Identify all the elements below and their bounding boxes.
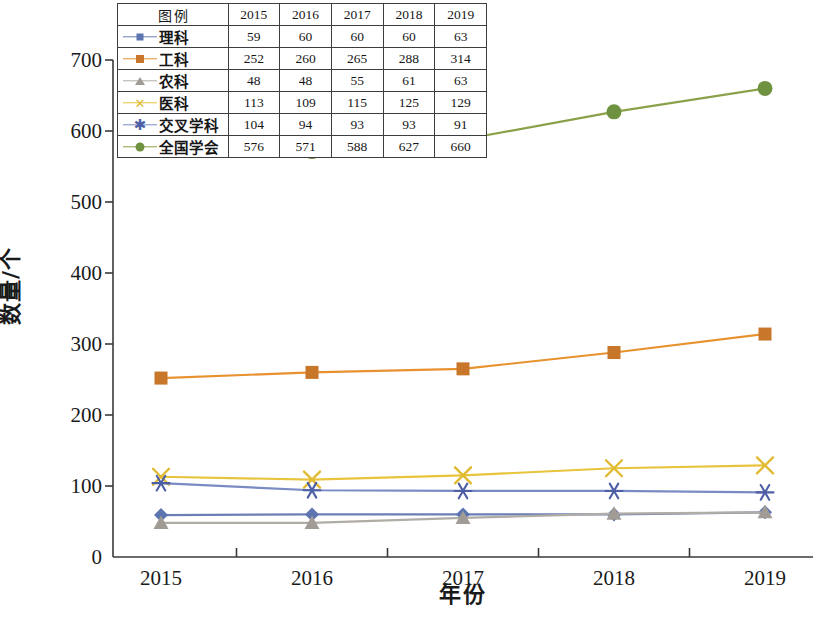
line-chart-figure: 图例 2015 2016 2017 2018 2019 理科5960606063… [0,0,817,624]
y-tick-label: 700 [71,48,103,73]
legend-value-cell: 104 [228,114,280,136]
x-tick-label: 2016 [291,566,333,591]
legend-series-cell: 理科 [118,26,229,48]
legend-value-cell: 252 [228,48,280,70]
legend-marker-square-icon [123,52,157,66]
legend-value-cell: 63 [435,26,487,48]
legend-header-row: 图例 2015 2016 2017 2018 2019 [118,4,487,26]
legend-marker-diamond-icon [123,30,157,44]
legend-value-cell: 113 [228,92,280,114]
legend-data-table: 图例 2015 2016 2017 2018 2019 理科5960606063… [117,3,487,158]
legend-series-cell: 工科 [118,48,229,70]
legend-value-cell: 55 [331,70,383,92]
legend-row: 农科4848556163 [118,70,487,92]
legend-series-cell: ✕医科 [118,92,229,114]
y-tick-label: 600 [71,119,103,144]
legend-value-cell: 314 [435,48,487,70]
y-tick-label: 200 [71,403,103,428]
legend-header-2018: 2018 [383,4,435,26]
legend-series-label: 工科 [159,48,189,69]
legend-row: ✕医科113109115125129 [118,92,487,114]
legend-value-cell: 115 [331,92,383,114]
legend-table-head: 图例 2015 2016 2017 2018 2019 [118,4,487,26]
legend-series-label: 医科 [159,92,189,113]
legend-row: 理科5960606063 [118,26,487,48]
legend-value-cell: 125 [383,92,435,114]
legend-value-cell: 61 [383,70,435,92]
legend-value-cell: 63 [435,70,487,92]
legend-series-cell: 农科 [118,70,229,92]
legend-header-2016: 2016 [280,4,332,26]
legend-header-2017: 2017 [331,4,383,26]
y-axis-label: 数量/个 [0,247,24,325]
legend-series-label: 理科 [159,26,189,47]
legend-value-cell: 91 [435,114,487,136]
legend-marker-triangle-icon [123,74,157,88]
legend-value-cell: 109 [280,92,332,114]
legend-value-cell: 288 [383,48,435,70]
legend-marker-circle-icon [123,140,157,154]
legend-value-cell: 60 [280,26,332,48]
legend-value-cell: 627 [383,136,435,158]
legend-value-cell: 59 [228,26,280,48]
legend-value-cell: 93 [331,114,383,136]
x-tick-label: 2019 [744,566,786,591]
legend-value-cell: 48 [228,70,280,92]
y-tick-label: 400 [71,261,103,286]
y-tick-label: 300 [71,332,103,357]
legend-value-cell: 129 [435,92,487,114]
y-tick-label: 500 [71,190,103,215]
x-tick-label: 2015 [140,566,182,591]
legend-value-cell: 571 [280,136,332,158]
legend-value-cell: 576 [228,136,280,158]
legend-table-body: 理科5960606063工科252260265288314农科484855616… [118,26,487,158]
legend-value-cell: 48 [280,70,332,92]
legend-series-label: 农科 [159,70,189,91]
legend-value-cell: 660 [435,136,487,158]
legend-series-label: 交叉学科 [159,114,219,135]
x-axis-label: 年份 [439,576,487,608]
legend-row: ✱交叉学科10494939391 [118,114,487,136]
y-tick-label: 100 [71,474,103,499]
legend-value-cell: 260 [280,48,332,70]
legend-row: 全国学会576571588627660 [118,136,487,158]
legend-value-cell: 60 [383,26,435,48]
legend-value-cell: 93 [383,114,435,136]
legend-series-label: 全国学会 [159,136,219,157]
legend-marker-x-icon: ✕ [123,96,157,110]
legend-series-cell: ✱交叉学科 [118,114,229,136]
x-tick-label: 2018 [593,566,635,591]
legend-row: 工科252260265288314 [118,48,487,70]
legend-marker-asterisk-icon: ✱ [123,118,157,132]
legend-value-cell: 60 [331,26,383,48]
y-tick-label: 0 [92,545,103,570]
legend-value-cell: 94 [280,114,332,136]
legend-value-cell: 265 [331,48,383,70]
legend-header-2015: 2015 [228,4,280,26]
legend-header-2019: 2019 [435,4,487,26]
legend-value-cell: 588 [331,136,383,158]
series-square [155,328,772,385]
legend-header-title: 图例 [118,4,229,26]
series-x [153,457,773,487]
legend-series-cell: 全国学会 [118,136,229,158]
